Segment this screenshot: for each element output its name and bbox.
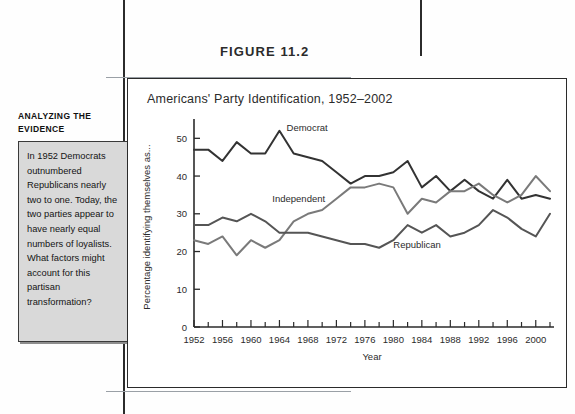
y-tick-label: 30 <box>176 208 187 219</box>
page-margin-rule-right <box>420 0 422 56</box>
x-tick-label: 1952 <box>183 334 204 345</box>
y-tick-label: 40 <box>176 171 187 182</box>
series-label-republican: Republican <box>393 239 441 250</box>
x-tick-label: 1984 <box>411 334 432 345</box>
x-tick-label: 1960 <box>240 334 261 345</box>
page-canvas: FIGURE 11.2 ANALYZING THE EVIDENCE In 19… <box>0 0 575 414</box>
x-tick-label: 1964 <box>269 334 290 345</box>
x-tick-label: 1976 <box>354 334 375 345</box>
figure-bottom-rule <box>106 391 351 392</box>
series-line-democrat <box>194 131 550 199</box>
y-tick-label: 20 <box>176 246 187 257</box>
y-tick-label: 0 <box>182 322 187 333</box>
analyzing-the-evidence-text: In 1952 Democrats outnumbered Republican… <box>27 149 123 310</box>
y-axis-title: Percentage identifying themselves as... <box>141 144 152 309</box>
chart-svg: 0102030405019521956196019641968197219761… <box>128 79 568 389</box>
line-chart: 0102030405019521956196019641968197219761… <box>128 79 568 389</box>
x-tick-label: 1996 <box>497 334 518 345</box>
x-tick-label: 2000 <box>525 334 546 345</box>
y-tick-label: 10 <box>176 284 187 295</box>
series-label-independent: Independent <box>272 193 325 204</box>
x-tick-label: 1956 <box>212 334 233 345</box>
series-label-democrat: Democrat <box>287 122 329 133</box>
analyzing-the-evidence-heading: ANALYZING THE EVIDENCE <box>18 110 128 136</box>
x-axis-title: Year <box>362 351 381 362</box>
x-tick-label: 1992 <box>468 334 489 345</box>
y-tick-label: 50 <box>176 133 187 144</box>
x-tick-label: 1988 <box>440 334 461 345</box>
x-tick-label: 1972 <box>326 334 347 345</box>
x-tick-label: 1980 <box>383 334 404 345</box>
series-line-republican <box>194 210 550 248</box>
analyzing-the-evidence-box: In 1952 Democrats outnumbered Republican… <box>18 141 128 342</box>
x-tick-label: 1968 <box>297 334 318 345</box>
figure-number: FIGURE 11.2 <box>220 44 309 59</box>
figure-frame: Americans' Party Identification, 1952–20… <box>127 78 567 388</box>
